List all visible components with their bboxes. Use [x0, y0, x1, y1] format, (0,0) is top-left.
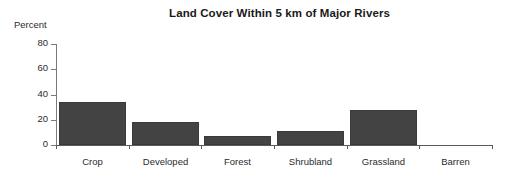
x-axis-tick-mark — [347, 145, 348, 149]
y-axis-tick-mark — [51, 44, 57, 45]
chart-title-text: Land Cover Within 5 km of Major Rivers — [169, 7, 390, 19]
bar — [59, 102, 126, 145]
x-axis-category-label: Grassland — [347, 156, 420, 167]
y-axis-tick-label: 80 — [37, 37, 48, 48]
bar — [277, 131, 344, 145]
bar — [350, 110, 417, 145]
chart-title: Land Cover Within 5 km of Major Rivers — [0, 7, 523, 19]
x-axis-category-label: Barren — [419, 156, 492, 167]
chart-screenshot: Land Cover Within 5 km of Major Rivers P… — [0, 0, 523, 177]
y-axis-tick-mark — [51, 120, 57, 121]
y-axis-tick-label: 20 — [37, 113, 48, 124]
x-axis-tick-mark — [201, 145, 202, 149]
y-axis-tick-label: 40 — [37, 88, 48, 99]
plot-area: 020406080 CropDevelopedForestShrublandGr… — [56, 44, 492, 145]
y-axis-tick-label: 0 — [43, 138, 48, 149]
x-axis-tick-mark — [129, 145, 130, 149]
bar — [204, 136, 271, 145]
bar — [132, 122, 199, 145]
x-axis-category-label: Crop — [56, 156, 129, 167]
x-axis-category-label: Forest — [201, 156, 274, 167]
x-axis-tick-mark — [56, 145, 57, 149]
x-axis-tick-mark — [419, 145, 420, 149]
x-axis-tick-mark — [274, 145, 275, 149]
x-axis-tick-mark — [492, 145, 493, 149]
y-axis-tick-mark — [51, 69, 57, 70]
x-axis-category-label: Developed — [129, 156, 202, 167]
x-axis-category-label: Shrubland — [274, 156, 347, 167]
y-axis-tick-mark — [51, 95, 57, 96]
y-axis-label: Percent — [14, 19, 47, 30]
y-axis-tick-label: 60 — [37, 62, 48, 73]
